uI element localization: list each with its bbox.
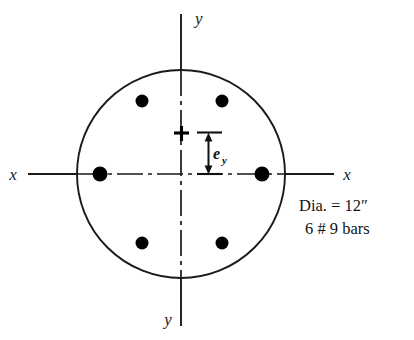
note-diameter: Dia. = 12″ xyxy=(299,196,368,215)
rebar-top-right xyxy=(216,95,229,108)
rebar-bottom-left xyxy=(136,237,149,250)
y-axis-label-top: y xyxy=(193,9,203,28)
y-axis-label-bottom: y xyxy=(162,310,172,329)
rebar-mid-right xyxy=(255,167,270,182)
x-axis-label-right: x xyxy=(342,165,351,184)
rebar-bottom-right xyxy=(216,237,229,250)
x-axis-label-left: x xyxy=(8,165,17,184)
rebar-top-left xyxy=(136,95,149,108)
rebar-mid-left xyxy=(93,167,108,182)
plastic-centroid-plus-icon xyxy=(174,126,189,141)
note-bar-schedule: 6 # 9 bars xyxy=(305,219,370,238)
eccentricity-label-subscript: y xyxy=(220,154,227,166)
figure-canvas: e y x x y y Dia. = 12″ 6 # 9 bars xyxy=(0,0,414,340)
column-cross-section-diagram: e y x x y y Dia. = 12″ 6 # 9 bars xyxy=(0,0,414,340)
eccentricity-label-e: e xyxy=(213,145,220,162)
